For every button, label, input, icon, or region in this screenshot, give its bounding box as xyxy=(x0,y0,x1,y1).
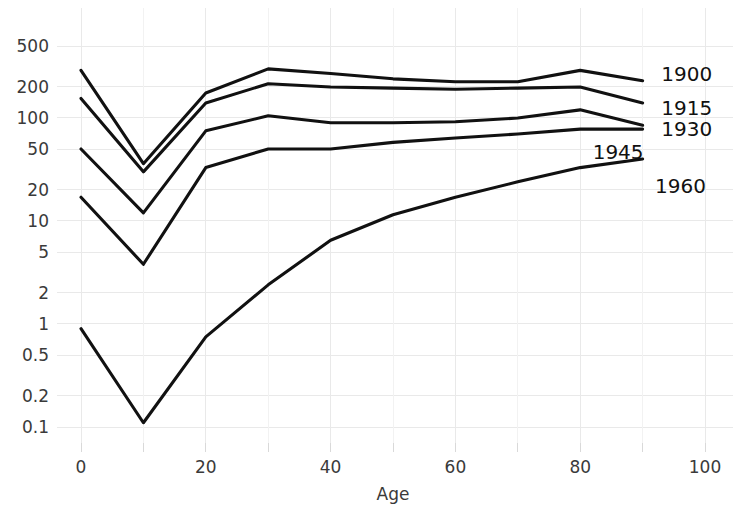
x-tick-label: 20 xyxy=(195,457,217,477)
x-axis-title: Age xyxy=(377,484,410,504)
series-label-1930: 1930 xyxy=(661,117,712,141)
y-tick-label: 0.2 xyxy=(22,386,49,406)
y-tick-label: 10 xyxy=(27,211,49,231)
x-tick-label: 0 xyxy=(76,457,87,477)
y-tick-label: 200 xyxy=(17,77,49,97)
y-tick-label: 2 xyxy=(38,283,49,303)
y-tick-label: 50 xyxy=(27,139,49,159)
y-tick-label: 0.5 xyxy=(22,345,49,365)
y-tick-label: 500 xyxy=(17,36,49,56)
series-label-1960: 1960 xyxy=(655,174,706,198)
y-tick-label: 5 xyxy=(38,242,49,262)
y-tick-label: 20 xyxy=(27,180,49,200)
y-tick-label: 0.1 xyxy=(22,417,49,437)
x-tick-label: 40 xyxy=(320,457,342,477)
x-tick-label: 60 xyxy=(445,457,467,477)
x-tick-label: 80 xyxy=(569,457,591,477)
series-label-1900: 1900 xyxy=(661,62,712,86)
chart-container: 0.10.20.5125102050100200500 020406080100… xyxy=(0,0,741,508)
x-tick-label: 100 xyxy=(689,457,721,477)
line-chart-log-scale: 0.10.20.5125102050100200500 020406080100… xyxy=(0,0,741,508)
y-tick-label: 100 xyxy=(17,108,49,128)
series-label-1945: 1945 xyxy=(593,140,644,164)
y-tick-label: 1 xyxy=(38,314,49,334)
